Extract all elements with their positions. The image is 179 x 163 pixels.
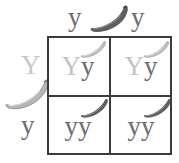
punnett-cell-r1c0: yy bbox=[47, 96, 109, 155]
banana-icon-dark-top-parent bbox=[89, 4, 129, 32]
punnett-cell-r0c1: Yy bbox=[110, 36, 172, 95]
punnett-cell-r0c0: Yy bbox=[47, 36, 109, 95]
left-gamete-label-1: Y bbox=[21, 52, 41, 79]
punnett-square-diagram: y y Y y Yy Yy bbox=[0, 0, 179, 163]
top-gamete-label-1: y bbox=[68, 4, 82, 31]
banana-icon-light-left-parent bbox=[4, 77, 50, 111]
allele-first-r0c0: Y bbox=[62, 50, 82, 80]
allele-second-r0c0: y bbox=[81, 50, 95, 80]
allele-first-r0c1: Y bbox=[125, 50, 145, 80]
allele-first-r1c0: y bbox=[65, 110, 79, 140]
allele-second-r1c0: y bbox=[78, 110, 92, 140]
allele-second-r1c1: y bbox=[141, 110, 155, 140]
genotype-label-r1c1: yy bbox=[110, 112, 172, 139]
top-gamete-label-2: y bbox=[131, 4, 145, 31]
genotype-label-r1c0: yy bbox=[47, 112, 109, 139]
genotype-label-r0c0: Yy bbox=[47, 52, 109, 79]
genotype-label-r0c1: Yy bbox=[110, 52, 172, 79]
left-gamete-label-2: y bbox=[21, 112, 35, 139]
allele-second-r0c1: y bbox=[144, 50, 158, 80]
allele-first-r1c1: y bbox=[128, 110, 142, 140]
punnett-cell-r1c1: yy bbox=[110, 96, 172, 155]
